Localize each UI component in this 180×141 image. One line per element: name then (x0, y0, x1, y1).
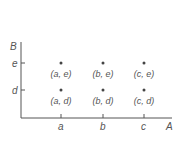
y-tick-label-e: e (12, 58, 18, 69)
point-c-e (143, 62, 146, 65)
y-tick-label-d: d (12, 85, 18, 96)
point-label: (b, e) (92, 69, 113, 79)
point-label: (b, d) (92, 96, 113, 106)
point-label: (a, d) (50, 96, 71, 106)
x-tick-label-b: b (100, 121, 106, 132)
x-axis-label: A (165, 121, 173, 132)
point-c-d (143, 89, 146, 92)
point-label: (c, e) (134, 69, 155, 79)
cartesian-product-diagram: B A e d a b c (a, e) (b, e) (c, e) (a, d… (0, 0, 180, 141)
y-axis-label: B (10, 41, 17, 52)
point-a-d (60, 89, 63, 92)
x-tick-label-a: a (58, 121, 64, 132)
point-a-e (60, 62, 63, 65)
point-b-e (102, 62, 105, 65)
point-b-d (102, 89, 105, 92)
x-tick-label-c: c (141, 121, 146, 132)
point-label: (a, e) (50, 69, 71, 79)
point-label: (c, d) (134, 96, 155, 106)
